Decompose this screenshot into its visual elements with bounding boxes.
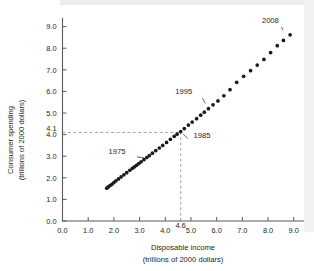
x-tick-label: 3.0 [134, 226, 144, 235]
data-point [125, 171, 129, 175]
data-point [169, 138, 173, 142]
data-point [282, 39, 286, 43]
x-tick-label: 5.0 [186, 226, 196, 235]
y-tick-label: 6.0 [46, 87, 56, 96]
data-point [202, 110, 206, 114]
x-tick-label: 7.0 [237, 226, 247, 235]
data-point [249, 69, 253, 73]
chart-figure: 0.01.02.03.04.05.06.07.08.09.00.01.02.03… [0, 0, 314, 271]
x-extra-tick-label-4-6: 4.6 [176, 221, 186, 230]
annotation-label-1975: 1975 [109, 147, 126, 156]
x-tick-label: 8.0 [263, 226, 273, 235]
data-point [147, 154, 151, 158]
y-tick-label: 5.0 [46, 109, 56, 118]
x-tick-label: 0.0 [57, 226, 67, 235]
data-point [211, 103, 215, 107]
y-tick-label: 8.0 [46, 44, 56, 53]
annotation-label-2008: 2008 [262, 16, 279, 25]
x-tick-label: 9.0 [289, 226, 299, 235]
data-point [165, 141, 169, 145]
data-point [275, 44, 279, 48]
data-point [158, 146, 162, 150]
y-axis-title-line2: (trillions of 2000 dollars) [17, 99, 26, 180]
data-point [182, 127, 186, 131]
annotation-label-1995: 1995 [175, 87, 192, 96]
data-point [288, 33, 292, 37]
data-points-layer [105, 33, 292, 190]
y-extra-tick-label-4-1: 4.1 [46, 124, 56, 133]
y-tick-label: 9.0 [46, 22, 56, 31]
annotation-label-1985: 1985 [194, 131, 211, 140]
y-tick-label: 0.0 [46, 217, 56, 226]
y-tick-label: 1.0 [46, 195, 56, 204]
data-point [151, 151, 155, 155]
y-axis-title-line1: Consumer spending [6, 106, 15, 174]
data-point [242, 74, 246, 78]
data-point [199, 113, 203, 117]
annotation-leader-1995 [202, 98, 205, 103]
data-point [216, 99, 220, 103]
x-axis-title-line1: Disposable income [151, 243, 215, 252]
scatter-plot: 0.01.02.03.04.05.06.07.08.09.00.01.02.03… [0, 0, 314, 271]
data-point [262, 58, 266, 62]
data-point [190, 120, 194, 124]
x-tick-label: 2.0 [109, 226, 119, 235]
x-tick-label: 4.0 [160, 226, 170, 235]
x-axis-title-line2: (trillions of 2000 dollars) [143, 255, 224, 264]
data-point [228, 88, 232, 92]
data-point [161, 144, 165, 148]
data-point [187, 123, 191, 127]
data-point [269, 51, 273, 55]
y-tick-label: 7.0 [46, 66, 56, 75]
annotation-leader-1985 [183, 134, 188, 139]
tick-labels-layer: 0.01.02.03.04.05.06.07.08.09.00.01.02.03… [46, 22, 299, 235]
data-point [195, 117, 199, 121]
annotation-leader-1975 [137, 157, 144, 158]
data-point [175, 132, 179, 136]
data-point [179, 130, 183, 134]
x-tick-label: 1.0 [83, 226, 93, 235]
annotation-leader-2008 [282, 27, 283, 30]
x-tick-label: 6.0 [212, 226, 222, 235]
data-point [207, 107, 211, 111]
data-point [235, 81, 239, 85]
tick-marks-layer [63, 27, 294, 221]
annotation-labels-layer: 1975198519952008 [109, 16, 279, 157]
data-point [154, 149, 158, 153]
data-point [222, 94, 226, 98]
y-tick-label: 2.0 [46, 174, 56, 183]
y-tick-label: 3.0 [46, 152, 56, 161]
data-point [255, 63, 259, 67]
